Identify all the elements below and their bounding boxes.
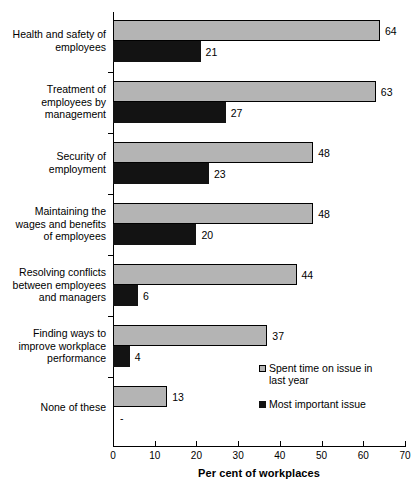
x-tick-50 (322, 441, 323, 447)
bar-most-important (113, 285, 138, 306)
y-tick (108, 72, 114, 73)
x-tick-20 (196, 441, 197, 447)
y-tick (108, 133, 114, 134)
x-tick-70 (405, 441, 406, 447)
black-swatch-icon (259, 401, 266, 408)
x-tick-10 (155, 441, 156, 447)
category-label: Resolving conflictsbetween employeesand … (0, 266, 106, 304)
x-tick-label-0: 0 (98, 450, 128, 462)
category-label: Maintaining thewages and benefitsof empl… (0, 205, 106, 243)
category-label: Security ofemployment (0, 150, 106, 175)
x-tick-60 (363, 441, 364, 447)
x-tick-label-40: 40 (265, 450, 295, 462)
category-label: None of these (0, 401, 106, 414)
bar-most-important (113, 41, 201, 62)
x-tick-label-60: 60 (348, 450, 378, 462)
bar-value-label: 48 (318, 147, 330, 159)
chart-legend: Spent time on issue in last year Most im… (259, 362, 417, 421)
category-label-line: employees by (0, 96, 106, 109)
x-axis-line (113, 446, 405, 447)
bar-spent-time (113, 264, 297, 285)
legend-label-spent-time: Spent time on issue in last year (269, 362, 372, 387)
legend-item-most-important: Most important issue (259, 398, 417, 410)
bar-value-label: 23 (214, 168, 226, 180)
category-label-line: management (0, 108, 106, 121)
category-label-line: None of these (0, 401, 106, 414)
bar-value-label: 21 (206, 46, 218, 58)
x-tick-0 (113, 441, 114, 447)
bar-spent-time (113, 203, 313, 224)
category-label-line: Treatment of (0, 83, 106, 96)
x-tick-label-30: 30 (223, 450, 253, 462)
category-label-line: and managers (0, 291, 106, 304)
y-tick (108, 377, 114, 378)
category-label-line: between employees (0, 279, 106, 292)
bar-value-label: 64 (385, 25, 397, 37)
category-label: Health and safety ofemployees (0, 28, 106, 53)
x-tick-30 (238, 441, 239, 447)
bar-most-important (113, 346, 130, 367)
x-axis-title: Per cent of workplaces (113, 467, 405, 479)
category-label-line: employment (0, 163, 106, 176)
y-tick (108, 255, 114, 256)
y-tick (108, 316, 114, 317)
y-tick (108, 194, 114, 195)
x-tick-label-20: 20 (181, 450, 211, 462)
x-tick-label-50: 50 (307, 450, 337, 462)
bar-most-important (113, 102, 226, 123)
bar-most-important (113, 163, 209, 184)
bar-value-label: 13 (172, 391, 184, 403)
scan-artifact (0, 0, 417, 10)
x-tick-label-10: 10 (140, 450, 170, 462)
category-label-line: wages and benefits (0, 218, 106, 231)
category-label-line: Security of (0, 150, 106, 163)
category-label-line: of employees (0, 230, 106, 243)
category-label-line: improve workplace (0, 340, 106, 353)
bar-spent-time (113, 20, 380, 41)
bar-spent-time (113, 81, 376, 102)
category-label: Treatment ofemployees bymanagement (0, 83, 106, 121)
bar-spent-time (113, 142, 313, 163)
bar-value-label: 20 (201, 229, 213, 241)
bar-most-important (113, 224, 196, 245)
bar-value-label: 27 (231, 107, 243, 119)
bar-value-label: 6 (143, 290, 149, 302)
bar-spent-time (113, 386, 167, 407)
legend-item-spent-time: Spent time on issue in last year (259, 362, 417, 387)
category-label-line: Finding ways to (0, 327, 106, 340)
category-label-line: Health and safety of (0, 28, 106, 41)
category-label: Finding ways toimprove workplaceperforma… (0, 327, 106, 365)
category-label-line: employees (0, 41, 106, 54)
bar-value-label: 63 (381, 86, 393, 98)
bar-spent-time (113, 325, 267, 346)
bar-value-label: - (120, 412, 124, 424)
bar-value-label: 44 (302, 269, 314, 281)
x-tick-label-70: 70 (390, 450, 417, 462)
bar-value-label: 37 (272, 330, 284, 342)
category-label-line: Resolving conflicts (0, 266, 106, 279)
legend-label-most-important: Most important issue (269, 398, 366, 410)
x-tick-40 (280, 441, 281, 447)
bar-value-label: 4 (135, 351, 141, 363)
horizontal-bar-chart: 010203040506070 Per cent of workplaces H… (0, 0, 417, 491)
gray-swatch-icon (259, 365, 266, 372)
category-label-line: Maintaining the (0, 205, 106, 218)
category-label-line: performance (0, 352, 106, 365)
bar-value-label: 48 (318, 208, 330, 220)
